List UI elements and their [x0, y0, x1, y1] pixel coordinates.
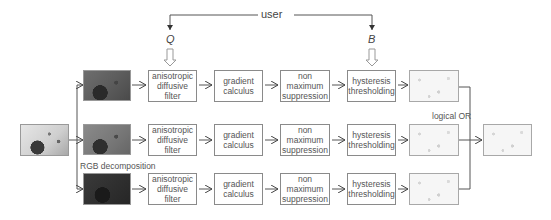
gradient-box-blue: gradient calculus — [214, 173, 263, 205]
hysteresis-box-blue: hysteresis thresholding — [347, 173, 396, 205]
combined-edge-map — [483, 124, 532, 156]
param-q-label: Q — [166, 33, 175, 45]
red-edge-map — [409, 70, 459, 102]
green-channel-image — [83, 124, 131, 155]
nms-box-blue: non maximum suppression — [280, 173, 330, 205]
rgb-decomposition-label: RGB decomposition — [80, 161, 156, 171]
anisotropic-filter-box-blue: anisotropic diffusive filter — [148, 173, 197, 205]
logical-or-label: logical OR — [432, 111, 471, 121]
gradient-box-green: gradient calculus — [214, 124, 263, 156]
hysteresis-box-green: hysteresis thresholding — [347, 124, 396, 156]
input-image — [20, 124, 69, 156]
gradient-box-red: gradient calculus — [214, 70, 263, 102]
hysteresis-box-red: hysteresis thresholding — [347, 70, 396, 102]
red-channel-image — [83, 70, 131, 101]
nms-box-green: non maximum suppression — [280, 124, 330, 156]
green-edge-map — [409, 124, 459, 156]
blue-edge-map — [409, 173, 459, 205]
user-label: user — [261, 8, 282, 20]
nms-box-red: non maximum suppression — [280, 70, 330, 102]
anisotropic-filter-box-red: anisotropic diffusive filter — [148, 70, 197, 102]
param-b-label: B — [368, 33, 375, 45]
anisotropic-filter-box-green: anisotropic diffusive filter — [148, 124, 197, 156]
blue-channel-image — [83, 173, 131, 205]
